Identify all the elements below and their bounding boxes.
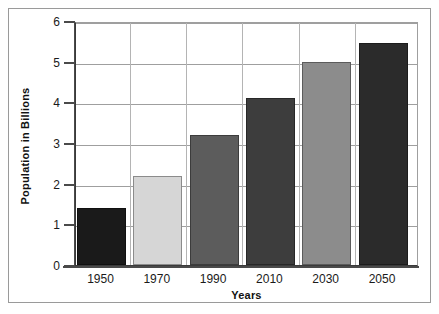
x-tick-label: 2050	[357, 272, 407, 286]
y-tick-label: 2	[38, 179, 60, 191]
x-tick-label: 2010	[244, 272, 294, 286]
y-tick-label: 5	[38, 57, 60, 69]
y-tick-label: 4	[38, 97, 60, 109]
x-tick-label: 1950	[76, 272, 126, 286]
y-tick-mark	[64, 184, 75, 186]
y-axis-title: Population in Billions	[19, 36, 31, 256]
x-axis-spine	[63, 266, 419, 268]
vertical-gridline	[186, 23, 187, 265]
vertical-gridline	[299, 23, 300, 265]
bar-2050	[359, 43, 408, 265]
y-tick-mark	[64, 224, 75, 226]
x-tick-label: 2030	[301, 272, 351, 286]
y-tick-label: 6	[38, 16, 60, 28]
x-axis-title: Years	[75, 289, 418, 301]
bar-1970	[133, 176, 182, 265]
y-tick-mark	[64, 62, 75, 64]
vertical-gridline	[242, 23, 243, 265]
bar-2010	[246, 98, 295, 265]
y-tick-label: 3	[38, 138, 60, 150]
y-tick-mark	[64, 102, 75, 104]
bar-2030	[302, 62, 351, 265]
chart-figure: Population in Billions 0123456 195019701…	[0, 0, 439, 314]
plot-area	[75, 22, 418, 266]
x-axis-tick-labels: 195019701990201020302050	[75, 272, 418, 288]
y-tick-mark	[64, 21, 75, 23]
y-axis-tick-labels: 0123456	[34, 0, 60, 314]
y-tick-label: 0	[38, 260, 60, 272]
bar-1990	[190, 135, 239, 265]
x-tick-label: 1970	[132, 272, 182, 286]
x-tick-label: 1990	[188, 272, 238, 286]
vertical-gridline	[355, 23, 356, 265]
gridline	[76, 23, 417, 24]
vertical-gridline	[130, 23, 131, 265]
y-tick-label: 1	[38, 219, 60, 231]
y-tick-mark	[64, 143, 75, 145]
y-tick-mark	[64, 265, 75, 267]
bar-1950	[77, 208, 126, 265]
